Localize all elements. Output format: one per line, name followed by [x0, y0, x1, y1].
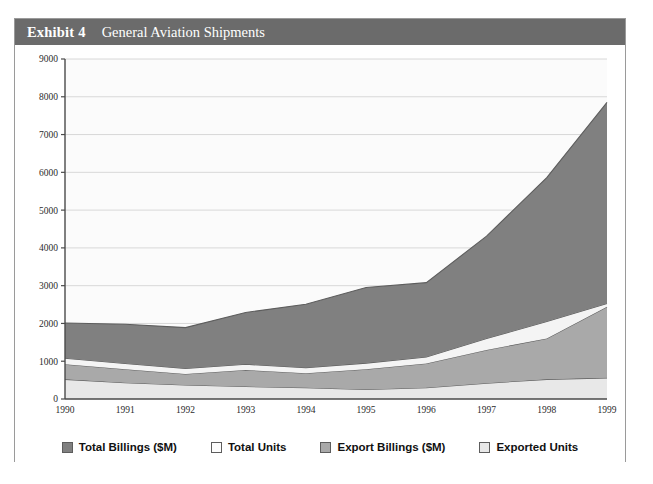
legend-item[interactable]: Exported Units	[479, 441, 578, 453]
legend-swatch	[211, 442, 222, 453]
y-axis-tick-label: 3000	[39, 281, 58, 291]
legend-swatch	[62, 442, 73, 453]
y-axis-tick-label: 9000	[39, 54, 58, 64]
y-axis-tick-label: 1000	[39, 357, 58, 367]
x-axis-tick-label: 1994	[296, 405, 315, 415]
exhibit-number: Exhibit 4	[27, 24, 86, 41]
chart-area: 0100020003000400050006000700080009000199…	[15, 45, 625, 463]
legend-item[interactable]: Total Billings ($M)	[62, 441, 177, 453]
exhibit-header: Exhibit 4 General Aviation Shipments	[15, 19, 625, 45]
exhibit-title: General Aviation Shipments	[102, 24, 265, 41]
x-axis-tick-label: 1993	[236, 405, 255, 415]
y-axis-tick-label: 2000	[39, 319, 58, 329]
x-axis-tick-label: 1991	[116, 405, 135, 415]
legend-item[interactable]: Export Billings ($M)	[320, 441, 445, 453]
y-axis-tick-label: 4000	[39, 243, 58, 253]
x-axis-tick-label: 1998	[537, 405, 556, 415]
legend-label: Export Billings ($M)	[337, 441, 445, 453]
legend-swatch	[479, 442, 490, 453]
x-axis-tick-label: 1990	[56, 405, 75, 415]
y-axis-tick-label: 5000	[39, 206, 58, 216]
chart-legend: Total Billings ($M)Total UnitsExport Bil…	[15, 441, 625, 453]
exhibit-frame: Exhibit 4 General Aviation Shipments 010…	[14, 18, 626, 462]
y-axis-tick-label: 6000	[39, 168, 58, 178]
legend-item[interactable]: Total Units	[211, 441, 287, 453]
x-axis-tick-label: 1992	[176, 405, 195, 415]
legend-swatch	[320, 442, 331, 453]
legend-label: Total Units	[228, 441, 287, 453]
y-axis-tick-label: 8000	[39, 92, 58, 102]
x-axis-tick-label: 1996	[417, 405, 436, 415]
legend-label: Total Billings ($M)	[79, 441, 177, 453]
x-axis-tick-label: 1999	[598, 405, 617, 415]
x-axis-tick-label: 1995	[357, 405, 376, 415]
stacked-area-chart: 0100020003000400050006000700080009000199…	[15, 45, 625, 463]
y-axis-tick-label: 0	[53, 394, 58, 404]
legend-label: Exported Units	[496, 441, 578, 453]
y-axis-tick-label: 7000	[39, 130, 58, 140]
x-axis-tick-label: 1997	[477, 405, 496, 415]
